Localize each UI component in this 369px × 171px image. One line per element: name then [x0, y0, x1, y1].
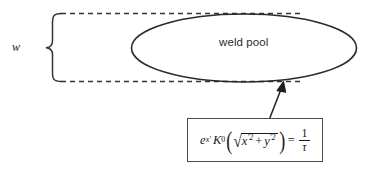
square-root: √x′2+y′2 [234, 133, 278, 148]
equation-base: e [200, 134, 206, 147]
weld-pool-ellipse [132, 14, 357, 82]
weld-pool-label: weld pool [219, 36, 269, 48]
fraction-denominator: τ [300, 141, 308, 154]
callout-arrow [270, 82, 286, 118]
radicand-y-prime-power: ′2 [270, 133, 276, 142]
width-brace [47, 14, 62, 82]
equals-sign: = [288, 134, 295, 147]
close-paren: ) [279, 133, 285, 148]
bessel-symbol: K [213, 134, 221, 147]
weld-pool-diagram: w weld pool ex′K0(√x′2+y′2)=1τ [0, 0, 369, 171]
fraction: 1τ [299, 127, 310, 153]
y-power: 2 [272, 133, 276, 142]
equation-expression: ex′K0(√x′2+y′2)=1τ [200, 127, 310, 153]
radicand-x-prime-power: ′2 [247, 133, 253, 142]
x-power: 2 [249, 133, 253, 142]
equation-box: ex′K0(√x′2+y′2)=1τ [187, 118, 323, 162]
plus-sign: + [255, 134, 262, 148]
width-label: w [12, 40, 20, 54]
fraction-numerator: 1 [299, 127, 309, 140]
radicand: x′2+y′2 [241, 133, 278, 148]
open-paren: ( [226, 133, 232, 148]
